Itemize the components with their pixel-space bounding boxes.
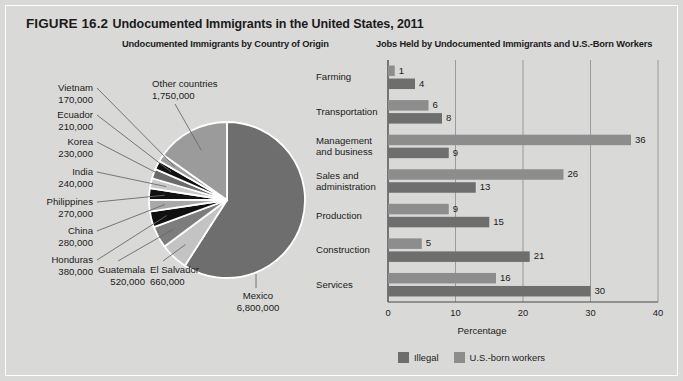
- bar-value-transportation-us-born: 6: [433, 99, 438, 110]
- category-label-management-and-business: Managementand business: [316, 135, 373, 158]
- category-label-line1: Management: [316, 135, 373, 146]
- bar-value-transportation-illegal: 8: [446, 112, 451, 123]
- pie-label-korea: Korea 230,000: [0, 136, 93, 159]
- bar-value-management-and-business-us-born: 36: [635, 134, 646, 145]
- bar-production-us-born: [388, 204, 449, 215]
- bar-chart-panel: FarmingTransportationManagementand busin…: [310, 52, 683, 352]
- x-tick-0: 0: [373, 307, 403, 318]
- category-label-transportation: Transportation: [316, 106, 378, 117]
- bar-production-illegal: [388, 217, 489, 228]
- bar-value-production-us-born: 9: [453, 203, 458, 214]
- bar-sales-and-administration-illegal: [388, 182, 476, 193]
- legend-swatch-illegal: [398, 352, 409, 363]
- bar-farming-us-born: [388, 66, 395, 77]
- category-label-construction: Construction: [316, 244, 370, 255]
- bar-value-sales-and-administration-illegal: 13: [480, 181, 491, 192]
- x-axis-title: Percentage: [422, 325, 542, 336]
- bar-transportation-us-born: [388, 100, 429, 111]
- x-tick-20: 20: [508, 307, 538, 318]
- pie-panel-subtitle: Undocumented Immigrants by Country of Or…: [122, 39, 329, 49]
- bar-panel-subtitle: Jobs Held by Undocumented Immigrants and…: [376, 39, 652, 49]
- legend-item-us-born: U.S.-born workers: [454, 352, 546, 363]
- bar-value-construction-us-born: 5: [426, 237, 431, 248]
- pie-label-vietnam: Vietnam 170,000: [0, 82, 93, 105]
- category-label-line1: Sales and: [316, 170, 376, 181]
- legend-swatch-us-born: [454, 352, 465, 363]
- legend-item-illegal: Illegal: [398, 352, 439, 363]
- category-label-line1: Production: [316, 210, 362, 221]
- bar-value-sales-and-administration-us-born: 26: [568, 168, 579, 179]
- chart-legend: Illegal U.S.-born workers: [398, 350, 545, 364]
- category-label-line2: administration: [316, 181, 376, 192]
- bar-value-farming-us-born: 1: [399, 65, 404, 76]
- pie-label-honduras: Honduras 380,000: [0, 254, 93, 277]
- bar-services-us-born: [388, 273, 496, 284]
- pie-label-mexico: Mexico 6,800,000: [218, 290, 298, 313]
- x-tick-40: 40: [643, 307, 673, 318]
- bar-value-services-us-born: 16: [500, 272, 511, 283]
- pie-label-china: China 280,000: [0, 225, 93, 248]
- x-tick-10: 10: [441, 307, 471, 318]
- bar-value-construction-illegal: 21: [534, 250, 545, 261]
- pie-label-india: India 240,000: [0, 166, 93, 189]
- bar-management-and-business-illegal: [388, 148, 449, 159]
- category-label-sales-and-administration: Sales andadministration: [316, 170, 376, 193]
- bar-value-management-and-business-illegal: 9: [453, 147, 458, 158]
- pie-label-other-countries: Other countries 1,750,000: [152, 78, 262, 101]
- pie-label-el-salvador: El Salvador 660,000: [150, 264, 220, 287]
- x-tick-30: 30: [576, 307, 606, 318]
- bar-value-farming-illegal: 4: [419, 78, 424, 89]
- bar-construction-us-born: [388, 238, 422, 249]
- bar-sales-and-administration-us-born: [388, 169, 564, 180]
- category-label-line1: Transportation: [316, 106, 378, 117]
- bar-transportation-illegal: [388, 113, 442, 124]
- category-label-line1: Services: [316, 279, 353, 290]
- grid-lines: [388, 60, 658, 302]
- leader-line: [97, 142, 168, 179]
- category-label-line1: Farming: [316, 71, 351, 82]
- bar-series: [388, 66, 631, 297]
- bar-services-illegal: [388, 286, 591, 297]
- figure-container: FIGURE 16.2 Undocumented Immigrants in t…: [0, 0, 683, 381]
- category-label-farming: Farming: [316, 71, 351, 82]
- category-label-production: Production: [316, 210, 362, 221]
- bar-value-services-illegal: 30: [595, 285, 606, 296]
- pie-label-ecuador: Ecuador 210,000: [0, 109, 93, 132]
- bar-chart-svg: [310, 52, 683, 352]
- figure-number: FIGURE 16.2: [26, 16, 108, 31]
- leader-line: [97, 115, 171, 172]
- pie-label-philippines: Philippines 270,000: [0, 196, 93, 219]
- legend-label-illegal: Illegal: [414, 352, 439, 363]
- pie-label-guatemala: Guatemala 520,000: [88, 264, 145, 287]
- category-label-services: Services: [316, 279, 353, 290]
- bar-management-and-business-us-born: [388, 135, 631, 146]
- bar-construction-illegal: [388, 251, 530, 262]
- page-title: FIGURE 16.2 Undocumented Immigrants in t…: [26, 14, 646, 34]
- pie-chart-panel: Vietnam 170,000 Ecuador 210,000 Korea 23…: [0, 52, 310, 337]
- bar-farming-illegal: [388, 79, 415, 90]
- legend-label-us-born: U.S.-born workers: [470, 352, 546, 363]
- figure-title: Undocumented Immigrants in the United St…: [113, 17, 424, 31]
- category-label-line1: Construction: [316, 244, 370, 255]
- category-label-line2: and business: [316, 146, 373, 157]
- bar-value-production-illegal: 15: [493, 216, 504, 227]
